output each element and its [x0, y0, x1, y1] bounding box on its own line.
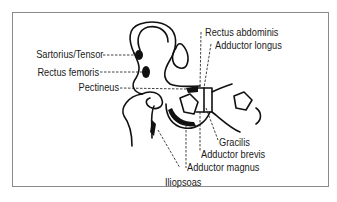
leader-rectus-abdominis: [200, 32, 201, 88]
label-iliopsoas: Iliopsoas: [165, 177, 201, 188]
label-adductor-magnus: Adductor magnus: [187, 162, 259, 173]
adductor-magnus-attachment: [168, 108, 196, 126]
leader-pectineus: [120, 88, 186, 89]
label-pectineus: Pectineus: [78, 82, 119, 93]
obturator-foramen: [180, 94, 198, 114]
label-gracilis: Gracilis: [219, 137, 250, 148]
label-adductor-longus: Adductor longus: [215, 40, 282, 51]
label-rectus-abdominis: Rectus abdominis: [205, 27, 278, 38]
iliac-wing-inner: [138, 27, 168, 50]
label-sartorius-tensor: Sartorius/Tensor: [36, 49, 103, 60]
sartorius-attachment: [135, 50, 143, 60]
label-adductor-brevis: Adductor brevis: [201, 149, 265, 160]
pelvis-drawing: [0, 0, 337, 202]
leader-adductor-longus: [204, 44, 211, 88]
label-rectus-femoris: Rectus femoris: [37, 67, 99, 78]
rectus-femoris-attachment: [142, 66, 150, 78]
right-obturator: [234, 92, 252, 110]
leader-iliopsoas: [158, 130, 180, 168]
femoral-head: [142, 92, 162, 109]
femur-outer: [123, 94, 142, 146]
right-pubic-bone: [212, 84, 232, 92]
